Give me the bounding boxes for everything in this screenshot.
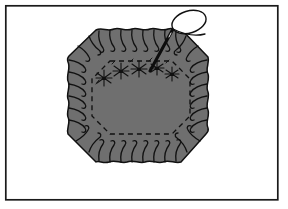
sewing-illustration-svg bbox=[0, 0, 288, 209]
fabric-ruffled-silhouette bbox=[68, 28, 209, 162]
illustration-container: Line drawing of a gray octagonal fabric … bbox=[0, 0, 288, 209]
